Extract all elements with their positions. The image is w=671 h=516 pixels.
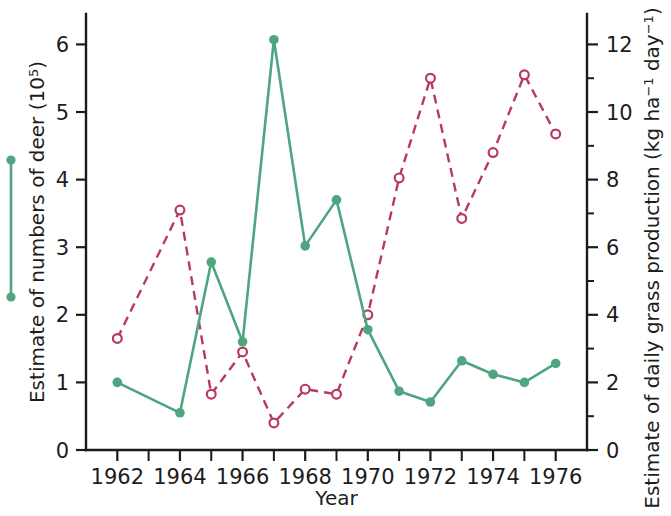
data-point-marker [363,325,373,335]
x-axis: 19621964196619681970197219741976 [86,450,587,489]
data-point-marker [113,334,122,343]
x-axis-tick-label: 1964 [153,465,206,489]
data-point-marker [457,214,466,223]
right-axis-tick-label: 0 [606,439,619,463]
right-axis-tick-label: 12 [606,33,633,57]
data-point-marker [488,369,498,379]
left-axis-title: Estimate of numbers of deer (105) [25,61,49,403]
legend-dot-top [6,155,15,164]
data-point-marker [113,378,123,388]
data-point-marker [269,419,278,428]
x-axis-title: Year [314,486,358,510]
data-point-marker [332,195,342,205]
series-line [117,40,555,413]
left-axis-tick-label: 1 [56,371,69,395]
data-point-marker [206,257,216,267]
right-axis-title: Estimate of daily grass production (kg h… [640,7,664,508]
data-point-marker [426,397,436,407]
data-point-marker [426,74,435,83]
data-point-marker [176,206,185,215]
right-axis-tick-label: 6 [606,236,619,260]
data-point-marker [300,241,310,251]
right-axis: 024681012 [587,14,633,463]
data-point-marker [269,35,279,45]
left-axis: 0123456 [56,14,86,463]
data-point-marker [520,70,529,79]
series-deer-numbers [113,35,561,418]
data-point-marker [395,174,404,183]
data-point-marker [207,390,216,399]
left-axis-tick-label: 2 [56,303,69,327]
figure-container: 0123456 024681012 1962196419661968197019… [0,0,671,516]
x-axis-tick-label: 1976 [529,465,582,489]
right-axis-tick-label: 10 [606,101,633,125]
data-point-marker [175,408,185,418]
data-point-marker [489,148,498,157]
right-axis-tick-label: 8 [606,168,619,192]
right-axis-tick-label: 2 [606,371,619,395]
data-point-marker [301,385,310,394]
x-axis-tick-label: 1966 [216,465,269,489]
data-point-marker [394,386,404,396]
data-point-marker [520,378,530,388]
x-axis-tick-label: 1974 [466,465,519,489]
legend-dot-bottom [6,292,15,301]
legend-range-marker [6,155,15,301]
axis-titles: YearEstimate of numbers of deer (105)Est… [25,7,664,510]
data-point-marker [238,337,248,347]
data-point-marker [551,359,561,369]
left-axis-tick-label: 5 [56,101,69,125]
data-point-marker [332,390,341,399]
left-axis-tick-label: 0 [56,439,69,463]
x-axis-tick-label: 1972 [404,465,457,489]
left-axis-tick-label: 6 [56,33,69,57]
data-point-marker [238,348,247,357]
left-axis-tick-label: 3 [56,236,69,260]
data-point-marker [551,130,560,139]
data-point-marker [457,356,467,366]
x-axis-tick-label: 1962 [91,465,144,489]
deer-grass-dual-axis-line-chart: 0123456 024681012 1962196419661968197019… [0,0,671,516]
left-axis-tick-label: 4 [56,168,69,192]
right-axis-tick-label: 4 [606,303,619,327]
